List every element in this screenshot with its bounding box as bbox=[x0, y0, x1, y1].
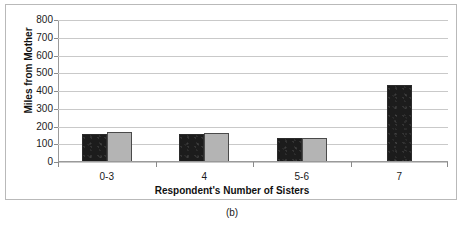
figure-caption: (b) bbox=[0, 207, 464, 218]
y-tick-label: 400 bbox=[36, 86, 53, 96]
y-tick-label: 700 bbox=[36, 33, 53, 43]
x-axis-title: Respondent's Number of Sisters bbox=[6, 185, 458, 196]
plot-area: 8007006005004003002001000 0-345-67 bbox=[58, 20, 448, 162]
y-tick-label: 200 bbox=[36, 122, 53, 132]
y-tick-label: 0 bbox=[47, 157, 53, 167]
y-axis-title: Miles from Mother bbox=[23, 1, 34, 141]
y-tick-label: 500 bbox=[36, 68, 53, 78]
y-tick-mark bbox=[54, 91, 58, 92]
x-category-label: 7 bbox=[396, 171, 402, 182]
bar-group bbox=[82, 132, 132, 161]
y-tick-label: 100 bbox=[36, 139, 53, 149]
bar-group bbox=[179, 133, 229, 161]
y-tick-mark bbox=[54, 56, 58, 57]
x-tick-mark bbox=[447, 162, 448, 167]
bar[interactable] bbox=[302, 138, 327, 161]
y-tick-mark bbox=[54, 38, 58, 39]
gridline bbox=[58, 20, 448, 21]
y-tick-label: 600 bbox=[36, 51, 53, 61]
chart-frame: Miles from Mother 8007006005004003002001… bbox=[5, 4, 457, 200]
bar-group bbox=[387, 85, 412, 161]
y-tick-label: 300 bbox=[36, 104, 53, 114]
x-category-label: 4 bbox=[201, 171, 207, 182]
bar[interactable] bbox=[204, 133, 229, 161]
bar[interactable] bbox=[387, 85, 412, 161]
y-tick-label: 800 bbox=[36, 15, 53, 25]
gridline bbox=[58, 73, 448, 74]
figure-container: Miles from Mother 8007006005004003002001… bbox=[0, 0, 464, 230]
x-tick-mark bbox=[253, 162, 254, 167]
x-category-label: 0-3 bbox=[100, 171, 114, 182]
y-tick-mark bbox=[54, 127, 58, 128]
x-category-label: 5-6 bbox=[295, 171, 309, 182]
gridline bbox=[58, 56, 448, 57]
y-tick-mark bbox=[54, 20, 58, 21]
bar[interactable] bbox=[277, 138, 302, 161]
x-tick-mark bbox=[58, 162, 59, 167]
gridline bbox=[58, 38, 448, 39]
bar[interactable] bbox=[107, 132, 132, 161]
y-tick-mark bbox=[54, 109, 58, 110]
y-tick-mark bbox=[54, 144, 58, 145]
y-tick-mark bbox=[54, 73, 58, 74]
bar-group bbox=[277, 138, 327, 161]
x-tick-mark bbox=[351, 162, 352, 167]
bar[interactable] bbox=[82, 134, 107, 161]
x-tick-mark bbox=[156, 162, 157, 167]
bar[interactable] bbox=[179, 134, 204, 161]
